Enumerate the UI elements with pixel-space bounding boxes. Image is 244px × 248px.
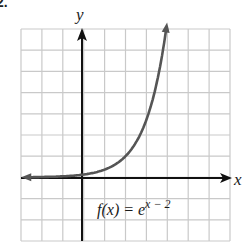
function-label: f(x) = ex − 2 [97, 197, 171, 219]
exponential-graph: y x f(x) = ex − 2 [0, 0, 244, 248]
curve-left-arrow-icon [21, 173, 31, 181]
y-axis-label: y [74, 5, 84, 24]
curve-right-arrow-icon [162, 22, 170, 32]
function-label-exponent: x − 2 [144, 197, 170, 211]
function-label-base: f(x) = e [97, 201, 145, 219]
x-axis-label: x [233, 170, 242, 189]
